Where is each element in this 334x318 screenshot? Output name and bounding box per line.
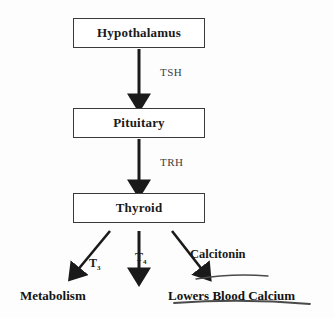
hormone-t3-subscript: 3 [97,264,101,272]
node-thyroid-label: Thyroid [116,200,163,216]
hormone-t4-subscript: 4 [143,258,147,266]
node-hypothalamus: Hypothalamus [73,18,205,48]
node-thyroid: Thyroid [73,193,205,223]
hormone-t4-symbol: T [135,250,143,264]
thyroid-regulation-diagram: Hypothalamus Pituitary Thyroid TSH TRH T… [0,0,334,318]
outcome-label-lowers-calcium: Lowers Blood Calcium [168,288,295,304]
hormone-label-calcitonin: Calcitonin [190,247,246,262]
node-pituitary-label: Pituitary [113,115,165,131]
outcome-label-metabolism: Metabolism [20,288,86,304]
hormone-label-t4: T4 [135,250,147,266]
edge-label-trh: TRH [160,156,184,168]
hormone-t3-symbol: T [89,256,97,270]
edge-label-tsh: TSH [160,66,182,78]
calcitonin-underline [196,275,268,279]
node-pituitary: Pituitary [73,108,205,138]
hormone-label-t3: T3 [89,256,101,272]
node-hypothalamus-label: Hypothalamus [97,25,181,41]
